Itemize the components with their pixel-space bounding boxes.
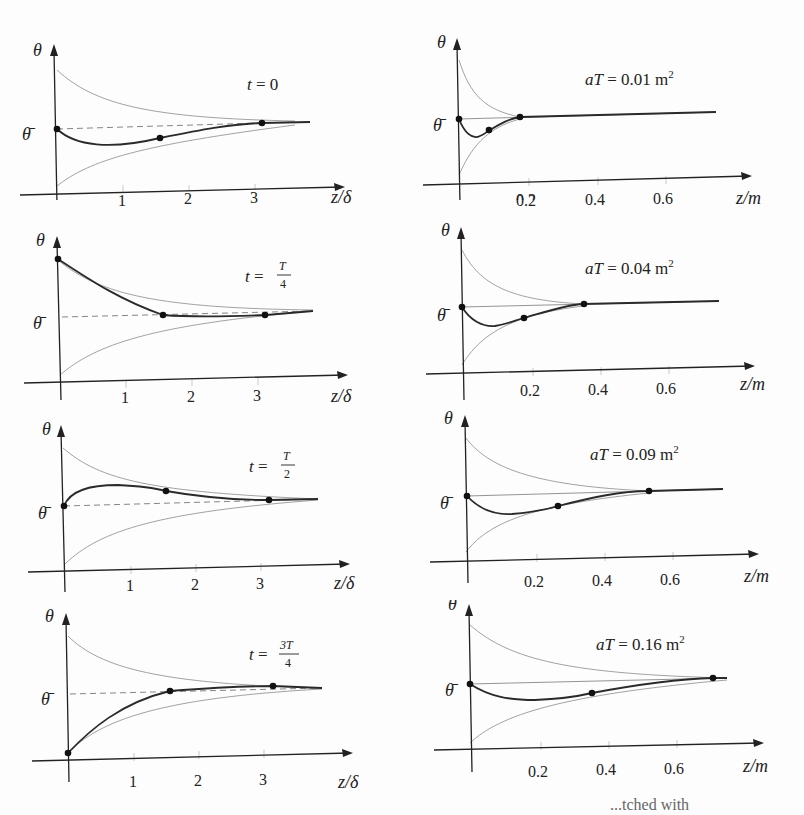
x-tick: 0.6 (660, 571, 680, 588)
time-label: t = (245, 267, 264, 286)
y-axis-label: θ (441, 220, 450, 240)
aT-label: aT = 0.04 m2 (585, 257, 674, 278)
y-axis-label: θ (444, 408, 453, 428)
y-axis-label: θ (36, 230, 45, 250)
plot-aT-0-09: θ θ̄ aT = 0.09 m2 0.2 0.4 0.6 z/m (400, 400, 804, 600)
plot-aT-0-16: θ θ̄ aT = 0.16 m2 0.2 0.4 0.6 z/m (400, 600, 804, 815)
x-tick: 1 (129, 773, 137, 790)
fraction-numerator: 3T (279, 638, 294, 652)
x-axis-label: z/m (743, 566, 769, 586)
fraction-denominator: 2 (284, 467, 290, 481)
x-tick: 0.2 (528, 763, 548, 780)
x-tick: 3 (259, 771, 267, 788)
plot-t-quarter: θ θ̄ t = T 4 (0, 200, 400, 400)
x-axis-label: z/δ (337, 772, 359, 792)
aT-label: aT = 0.16 m2 (596, 633, 685, 654)
fraction-denominator: 4 (285, 656, 291, 670)
mean-label: θ̄ (41, 689, 55, 709)
x-tick: 2 (191, 576, 199, 593)
mean-label: θ̄ (437, 305, 451, 325)
footer-text-fragment: ...tched with (610, 796, 689, 814)
y-axis-label: θ (437, 32, 446, 52)
y-axis-label: θ (45, 606, 54, 626)
mean-label: θ̄ (22, 124, 36, 144)
mean-label: θ̄ (33, 313, 47, 333)
y-axis-label: θ (33, 40, 42, 60)
aT-label: aT = 0.01 m2 (585, 68, 674, 89)
mean-label: θ̄ (440, 493, 454, 513)
fraction-numerator: T (283, 449, 291, 463)
time-label: t = 0 (247, 75, 278, 94)
x-tick: 0.4 (592, 572, 612, 589)
fraction-numerator: T (279, 259, 287, 273)
y-axis-label: θ (42, 419, 51, 439)
x-axis-label: z/δ (333, 573, 355, 593)
x-tick: 0.2 (520, 382, 540, 399)
x-tick: 2 (194, 772, 202, 789)
x-tick: 0.2 (524, 573, 544, 590)
plot-t-0: θ θ̄ t = 0 (0, 0, 400, 200)
x-tick: 0.6 (656, 380, 676, 397)
fraction-denominator: 4 (280, 277, 286, 291)
mean-label: θ̄ (433, 115, 447, 135)
x-axis-label: z/m (739, 374, 765, 394)
time-label: t = (249, 457, 268, 476)
plot-aT-0-01: θ θ̄ aT = 0.01 m2 0.2 (400, 0, 804, 200)
aT-label: aT = 0.09 m2 (590, 443, 679, 464)
x-axis-label: z/m (742, 756, 768, 776)
x-tick: 1 (126, 577, 134, 594)
mean-label: θ̄ (445, 680, 459, 700)
mean-label: θ̄ (38, 503, 52, 523)
x-tick: 0.6 (664, 760, 684, 777)
x-tick: 3 (256, 575, 264, 592)
x-axis-ticks-t-half: 1 2 3 z/δ (0, 560, 400, 600)
x-tick: 0.4 (596, 761, 616, 778)
time-label: t = (249, 645, 268, 664)
y-axis-label: θ (448, 600, 457, 614)
x-tick: 0.4 (588, 381, 608, 398)
plot-t-three-quarter: θ θ̄ t = 3T 4 1 2 3 z/δ (0, 600, 400, 815)
